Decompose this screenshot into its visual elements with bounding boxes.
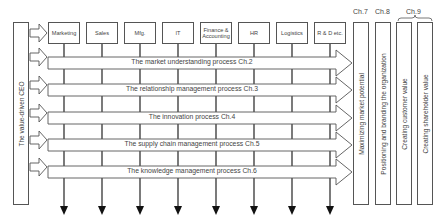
ceo-label: The value-driven CEO <box>18 81 25 146</box>
dept-label: R & D etc. <box>317 30 343 37</box>
dept-label: Logistics <box>281 30 303 37</box>
outcome-shareholder-value: Creating shareholder value <box>417 22 433 205</box>
dept-label: Mfg. <box>135 30 146 37</box>
dept-hr: HR <box>238 22 270 44</box>
dept-finance: Finance & Accounting <box>200 22 232 44</box>
dept-mfg: Mfg. <box>124 22 156 44</box>
ceo-box: The value-driven CEO <box>13 22 29 205</box>
outcome-label: Maximizing market potential <box>358 73 365 155</box>
dept-label: HR <box>250 30 258 37</box>
chapter-label-7: Ch.7 <box>353 8 368 15</box>
process-supply-chain: The supply chain management process Ch.5 <box>48 140 336 147</box>
process-knowledge-management: The knowledge management process Ch.6 <box>48 167 336 174</box>
dept-it: IT <box>162 22 194 44</box>
dept-label: Marketing <box>52 30 77 37</box>
outcome-maximizing-market-potential: Maximizing market potential <box>353 22 369 205</box>
dept-logistics: Logistics <box>276 22 308 44</box>
dept-rnd: R & D etc. <box>314 22 346 44</box>
outcome-customer-value: Creating customer value <box>396 22 412 205</box>
dept-label: IT <box>176 30 181 37</box>
outcome-positioning-branding: Positioning and branding the organizatio… <box>375 22 391 205</box>
process-market-understanding: The market understanding process Ch.2 <box>48 58 336 65</box>
process-relationship-management: The relationship management process Ch.3 <box>48 85 336 92</box>
process-innovation: The innovation process Ch.4 <box>48 113 336 120</box>
outcome-label: Creating shareholder value <box>422 74 429 153</box>
dept-marketing: Marketing <box>48 22 80 44</box>
outcome-label: Creating customer value <box>401 78 408 149</box>
dept-label: Sales <box>95 30 109 37</box>
dept-label: Finance & Accounting <box>201 27 231 40</box>
dept-sales: Sales <box>86 22 118 44</box>
outcome-label: Positioning and branding the organizatio… <box>380 53 387 174</box>
chapter-label-9: Ch.9 <box>406 8 421 15</box>
chapter-label-8: Ch.8 <box>375 8 390 15</box>
